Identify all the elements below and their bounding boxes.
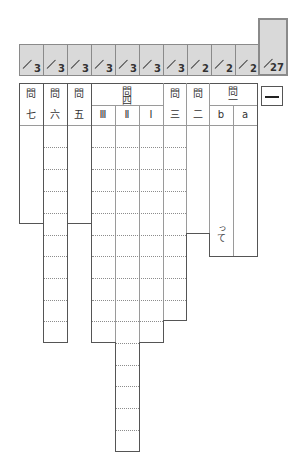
section-number-glyph [265,96,279,98]
answer-cell-q1-a[interactable] [234,126,257,256]
slash-icon [95,60,104,69]
header-q1-num: 一 [209,95,257,107]
score-total: 27 [270,62,284,73]
header-q5-mon: 問 [67,88,91,100]
answer-cell-q2[interactable] [187,126,209,233]
score-points: 3 [154,63,161,74]
col-q4-2-bottom [115,451,139,452]
slash-icon [239,60,248,69]
col-q4-2-right [139,342,140,452]
score-points: 2 [226,63,233,74]
score-points: 2 [250,63,257,74]
header-q6-mon: 問 [43,88,67,100]
score-box-2: 3 [43,44,68,76]
header-q3-num: 三 [163,109,186,121]
score-points: 3 [34,63,41,74]
answer-cell-q4-2[interactable] [116,126,139,451]
score-box-7: 3 [163,44,188,76]
col-q5-bottom [67,223,92,224]
col-q3-bottom [163,320,187,321]
header-q5-num: 五 [67,109,91,121]
score-box-8: 2 [187,44,212,76]
slash-icon [143,60,152,69]
header-q6-num: 六 [43,109,67,121]
answer-cell-q3[interactable] [164,126,186,320]
col-q2-bottom [186,233,210,234]
score-points: 2 [202,63,209,74]
header-q2-mon: 問 [186,88,209,100]
slash-icon [23,60,32,69]
header-q1-sub-b: b [209,109,233,121]
col-q4-3-bottom [91,342,115,343]
header-q7-num: 七 [19,109,43,121]
answer-cell-q6[interactable] [44,126,67,342]
header-q2-num: 二 [186,109,209,121]
score-points: 3 [178,63,185,74]
answer-cell-q5[interactable] [68,126,91,223]
answer-cell-q7[interactable] [20,126,43,223]
grid-top-border [19,83,258,84]
slash-icon [71,60,80,69]
score-points: 3 [82,63,89,74]
answer-suffix-b: って [216,224,226,242]
col-q1-right [257,83,258,257]
answer-cell-q1-b[interactable] [210,126,233,222]
slash-icon [119,60,128,69]
col-q3-right-lower [186,233,187,321]
score-box-10: 2 [235,44,260,76]
header-q1-sub-a: a [233,109,257,121]
slash-icon [47,60,56,69]
score-box-6: 3 [139,44,164,76]
col-q6-bottom [43,342,68,343]
slash-icon [191,60,200,69]
score-box-9: 2 [211,44,236,76]
header-q7-mon: 問 [19,88,43,100]
slash-icon [167,60,176,69]
header-q4-num: 四 [91,95,163,107]
slash-icon [215,60,224,69]
score-points: 3 [130,63,137,74]
header-q4-sub-3: Ⅲ [91,109,115,121]
answer-cell-q4-1[interactable] [140,126,163,342]
col-q4-1-bottom [139,342,163,343]
score-points: 3 [106,63,113,74]
score-box-1: 3 [19,44,44,76]
col-q1-bottom [209,256,258,257]
score-box-3: 3 [67,44,92,76]
score-box-5: 3 [115,44,140,76]
header-q3-mon: 問 [163,88,186,100]
header-q4-sub-2: Ⅱ [115,109,139,121]
score-total-box: 27 [258,18,288,76]
answer-cell-q4-3[interactable] [92,126,115,342]
col-q2-right-lower [209,233,210,257]
col-q4-1-right-lower [163,321,164,343]
col-q7-bottom [19,223,44,224]
score-points: 3 [58,63,65,74]
section-number-box [261,86,283,106]
header-q4-sub-1: Ⅰ [139,109,163,121]
score-box-4: 3 [91,44,116,76]
